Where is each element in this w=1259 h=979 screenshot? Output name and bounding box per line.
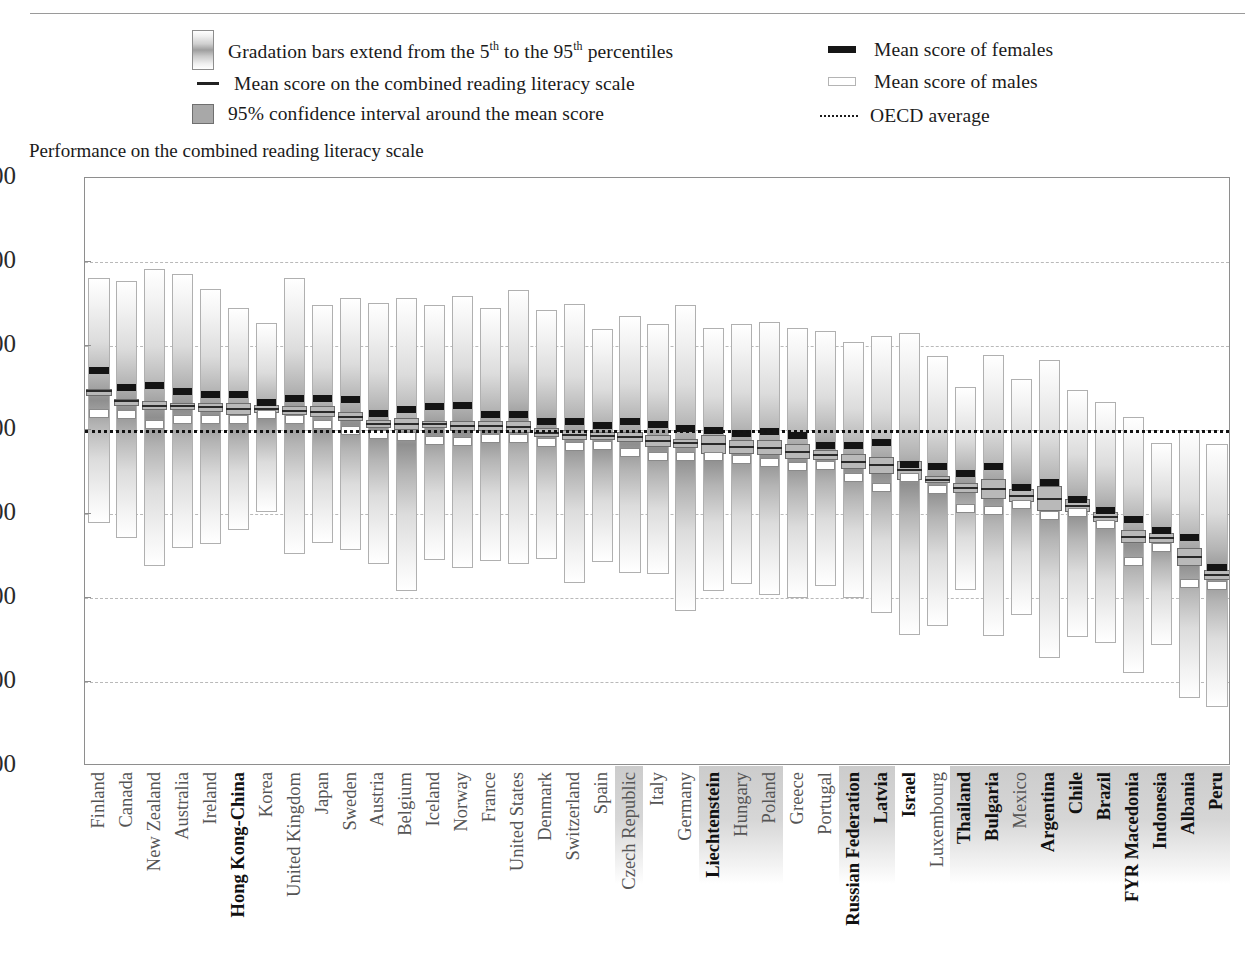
mean-score-marker xyxy=(673,442,698,444)
country-bar-group[interactable] xyxy=(1179,178,1200,764)
x-label-slot[interactable]: New Zealand xyxy=(140,766,168,966)
country-bar-group[interactable] xyxy=(787,178,808,764)
x-label-slot[interactable]: Brazil xyxy=(1090,766,1118,966)
country-bar-group[interactable] xyxy=(1095,178,1116,764)
male-mean-marker xyxy=(900,473,919,482)
country-bar-group[interactable] xyxy=(815,178,836,764)
country-bar-group[interactable] xyxy=(592,178,613,764)
mean-score-marker xyxy=(86,390,111,392)
country-bar-group[interactable] xyxy=(284,178,305,764)
y-tick-value: 200 xyxy=(0,666,16,694)
x-label-slot[interactable]: Thailand xyxy=(950,766,978,966)
x-label-slot[interactable]: Iceland xyxy=(419,766,447,966)
x-label-slot[interactable]: Israel xyxy=(895,766,923,966)
country-bar-group[interactable] xyxy=(340,178,361,764)
country-bar-group[interactable] xyxy=(368,178,389,764)
country-bar-group[interactable] xyxy=(1067,178,1088,764)
x-label-slot[interactable]: Spain xyxy=(587,766,615,966)
country-bar-group[interactable] xyxy=(228,178,249,764)
x-label-slot[interactable]: Hong Kong-China xyxy=(224,766,252,966)
country-bar-group[interactable] xyxy=(675,178,696,764)
x-label-slot[interactable]: Chile xyxy=(1062,766,1090,966)
x-label-slot[interactable]: Australia xyxy=(168,766,196,966)
x-label-slot[interactable]: Peru xyxy=(1202,766,1230,966)
x-label-slot[interactable]: Japan xyxy=(308,766,336,966)
country-label: Australia xyxy=(171,772,192,840)
x-label-slot[interactable]: Poland xyxy=(755,766,783,966)
x-label-slot[interactable]: United Kingdom xyxy=(280,766,308,966)
country-bar-group[interactable] xyxy=(647,178,668,764)
country-bar-group[interactable] xyxy=(731,178,752,764)
country-bar-group[interactable] xyxy=(396,178,417,764)
country-bar-group[interactable] xyxy=(1123,178,1144,764)
country-bar-group[interactable] xyxy=(256,178,277,764)
x-label-slot[interactable]: Argentina xyxy=(1034,766,1062,966)
x-label-slot[interactable]: Bulgaria xyxy=(978,766,1006,966)
country-bar-group[interactable] xyxy=(1151,178,1172,764)
legend-item-oecd: OECD average xyxy=(820,106,990,126)
x-label-slot[interactable]: Sweden xyxy=(336,766,364,966)
country-bar-group[interactable] xyxy=(172,178,193,764)
country-bar-group[interactable] xyxy=(619,178,640,764)
y-tick-value: 600 xyxy=(0,330,16,358)
female-mean-marker xyxy=(984,463,1003,470)
x-label-slot[interactable]: Denmark xyxy=(531,766,559,966)
country-bar-group[interactable] xyxy=(1039,178,1060,764)
country-bar-group[interactable] xyxy=(843,178,864,764)
x-label-slot[interactable]: Germany xyxy=(671,766,699,966)
x-label-slot[interactable]: Luxembourg xyxy=(923,766,951,966)
female-mean-marker xyxy=(341,396,360,403)
x-label-slot[interactable]: Albania xyxy=(1174,766,1202,966)
country-bar-group[interactable] xyxy=(480,178,501,764)
country-label: Denmark xyxy=(535,772,556,841)
country-bar-group[interactable] xyxy=(424,178,445,764)
female-mean-marker xyxy=(1207,564,1226,571)
country-bar-group[interactable] xyxy=(312,178,333,764)
country-bar-group[interactable] xyxy=(200,178,221,764)
male-mean-marker xyxy=(1207,581,1226,590)
country-bar-group[interactable] xyxy=(1011,178,1032,764)
x-label-slot[interactable]: Liechtenstein xyxy=(699,766,727,966)
x-label-slot[interactable]: Italy xyxy=(643,766,671,966)
male-mean-marker xyxy=(285,415,304,424)
country-bar-group[interactable] xyxy=(116,178,137,764)
x-label-slot[interactable]: Mexico xyxy=(1006,766,1034,966)
x-label-slot[interactable]: Czech Republic xyxy=(615,766,643,966)
country-bar-group[interactable] xyxy=(452,178,473,764)
x-label-slot[interactable]: Finland xyxy=(84,766,112,966)
x-label-slot[interactable]: Greece xyxy=(783,766,811,966)
country-label: Liechtenstein xyxy=(702,772,723,878)
country-bar-group[interactable] xyxy=(983,178,1004,764)
x-label-slot[interactable]: Hungary xyxy=(727,766,755,966)
x-label-slot[interactable]: Korea xyxy=(252,766,280,966)
legend-label-confidence: 95% confidence interval around the mean … xyxy=(228,104,604,124)
x-label-slot[interactable]: Belgium xyxy=(391,766,419,966)
x-label-slot[interactable]: Ireland xyxy=(196,766,224,966)
x-label-slot[interactable]: Indonesia xyxy=(1146,766,1174,966)
x-label-slot[interactable]: Russian Federation xyxy=(839,766,867,966)
x-label-slot[interactable]: France xyxy=(475,766,503,966)
country-bar-group[interactable] xyxy=(759,178,780,764)
y-tick-value: 700 xyxy=(0,246,16,274)
x-label-slot[interactable]: United States xyxy=(503,766,531,966)
country-bar-group[interactable] xyxy=(536,178,557,764)
country-bar-group[interactable] xyxy=(508,178,529,764)
percentile-gradation-bar xyxy=(396,298,417,591)
x-label-slot[interactable]: Norway xyxy=(447,766,475,966)
country-bar-group[interactable] xyxy=(564,178,585,764)
country-bar-group[interactable] xyxy=(927,178,948,764)
x-label-slot[interactable]: Austria xyxy=(364,766,392,966)
country-bar-group[interactable] xyxy=(88,178,109,764)
country-bar-group[interactable] xyxy=(1206,178,1227,764)
x-label-slot[interactable]: Canada xyxy=(112,766,140,966)
x-label-slot[interactable]: Switzerland xyxy=(559,766,587,966)
country-bar-group[interactable] xyxy=(703,178,724,764)
x-label-slot[interactable]: Portugal xyxy=(811,766,839,966)
country-bar-group[interactable] xyxy=(144,178,165,764)
x-label-slot[interactable]: FYR Macedonia xyxy=(1118,766,1146,966)
country-bar-group[interactable] xyxy=(955,178,976,764)
country-bar-group[interactable] xyxy=(899,178,920,764)
male-mean-marker xyxy=(537,438,556,447)
country-bar-group[interactable] xyxy=(871,178,892,764)
x-label-slot[interactable]: Latvia xyxy=(867,766,895,966)
